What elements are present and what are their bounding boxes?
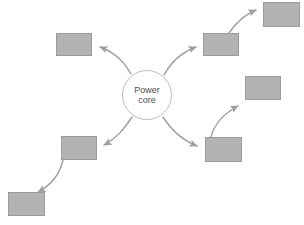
arrow-lower-right-to-mid-right [211,106,238,137]
node-bottom-left[interactable] [8,192,45,216]
node-mid-right[interactable] [245,76,281,100]
node-upper-right[interactable] [203,33,239,56]
arrow-core-to-lower-right [163,117,197,146]
node-upper-left[interactable] [56,33,92,56]
power-core-diagram: Power core [0,0,304,225]
power-core-node[interactable]: Power core [122,70,172,120]
node-top-right[interactable] [263,2,300,27]
arrow-upper-right-to-top-right [229,10,256,33]
arrow-core-to-upper-left [100,47,131,74]
arrow-core-to-mid-left [104,117,132,145]
arrow-core-to-upper-right [164,47,196,75]
core-label-line-2: core [138,95,156,105]
node-mid-left[interactable] [61,136,97,160]
core-label-line-1: Power [134,85,160,95]
arrow-mid-left-to-bottom-left [38,160,63,192]
node-lower-right[interactable] [205,137,242,162]
